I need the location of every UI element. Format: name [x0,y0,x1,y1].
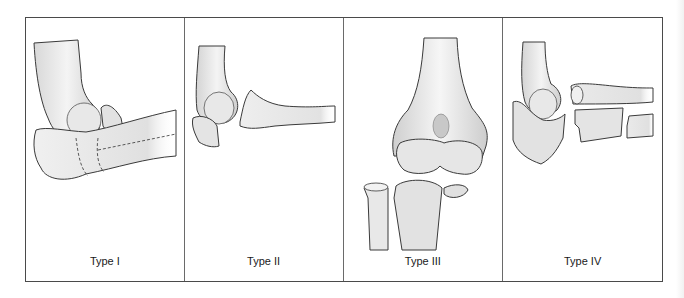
panel-label: Type II [185,255,343,267]
panel-label: Type III [344,255,503,267]
page-edge-shadow [676,0,684,298]
panel-label: Type IV [503,255,662,267]
panel-type-2: Type II [185,18,344,281]
panel-label: Type I [26,255,184,267]
panel-type-3: Type III [344,18,504,281]
elbow-illustration-type-4 [503,18,662,283]
elbow-illustration-type-2 [185,18,344,283]
elbow-illustration-type-3 [344,18,504,283]
panel-type-4: Type IV [503,18,662,281]
panel-type-1: Type I [26,18,185,281]
fracture-classification-figure: Type I Type II [25,17,663,282]
elbow-illustration-type-1 [26,18,185,283]
